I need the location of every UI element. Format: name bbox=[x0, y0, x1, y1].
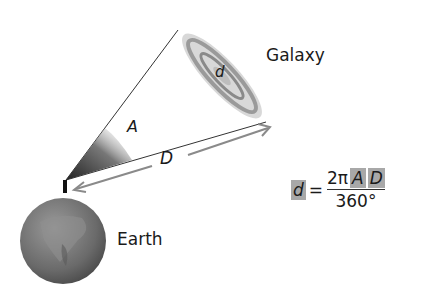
formula-const: 2π bbox=[327, 168, 348, 188]
small-angle-formula: d = 2π A D 360° bbox=[291, 168, 385, 211]
formula-lhs: d bbox=[291, 180, 306, 200]
galaxy-label: Galaxy bbox=[266, 45, 325, 65]
earth-icon bbox=[20, 198, 106, 284]
diameter-label: d bbox=[215, 63, 225, 81]
formula-fraction: 2π A D 360° bbox=[327, 168, 385, 211]
earth-label: Earth bbox=[117, 229, 163, 249]
distance-label: D bbox=[160, 148, 173, 168]
diagram-canvas bbox=[0, 0, 424, 294]
angle-label: A bbox=[127, 117, 138, 136]
observer-icon bbox=[63, 180, 67, 193]
formula-numerator: 2π A D bbox=[327, 168, 385, 190]
formula-D: D bbox=[368, 168, 385, 188]
formula-equals: = bbox=[309, 180, 323, 200]
formula-A: A bbox=[350, 168, 366, 188]
formula-denominator: 360° bbox=[335, 190, 376, 211]
